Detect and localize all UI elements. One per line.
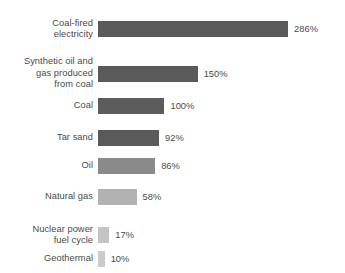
bar-value-label: 58% (137, 192, 162, 202)
horizontal-bar-chart: Coal-fired electricity286%Synthetic oil … (0, 0, 345, 273)
chart-row: Synthetic oil and gas produced from coal… (0, 57, 345, 90)
bar-area: 86% (98, 158, 345, 174)
bar-value-label: 92% (159, 133, 184, 143)
category-label: Tar sand (0, 132, 98, 143)
chart-row: Coal-fired electricity286% (0, 18, 345, 40)
bar-value-label: 17% (109, 230, 134, 240)
category-label: Natural gas (0, 191, 98, 202)
chart-row: Coal100% (0, 95, 345, 117)
bar-area: 17% (98, 227, 345, 243)
bar-value-label: 86% (155, 161, 180, 171)
category-label: Coal (0, 100, 98, 111)
bar-area: 150% (98, 66, 345, 82)
bar (98, 189, 137, 205)
chart-row: Oil86% (0, 155, 345, 177)
category-label: Synthetic oil and gas produced from coal (0, 56, 98, 90)
bar (98, 130, 159, 146)
chart-row: Geothermal10% (0, 248, 345, 270)
chart-row: Tar sand92% (0, 127, 345, 149)
category-label: Oil (0, 160, 98, 171)
bar-area: 100% (98, 98, 345, 114)
bar (98, 227, 109, 243)
category-label: Nuclear power fuel cycle (0, 224, 98, 247)
category-label: Geothermal (0, 253, 98, 264)
bar (98, 66, 198, 82)
bar (98, 251, 105, 267)
bar-area: 58% (98, 189, 345, 205)
bar-area: 10% (98, 251, 345, 267)
chart-row: Nuclear power fuel cycle17% (0, 221, 345, 249)
chart-row: Natural gas58% (0, 186, 345, 208)
category-label: Coal-fired electricity (0, 18, 98, 41)
bar-value-label: 150% (198, 69, 228, 79)
bar (98, 98, 164, 114)
bar-value-label: 100% (164, 101, 194, 111)
bar (98, 21, 288, 37)
bar-value-label: 10% (105, 254, 130, 264)
bar-value-label: 286% (288, 24, 318, 34)
bar-area: 286% (98, 21, 345, 37)
bar (98, 158, 155, 174)
bar-area: 92% (98, 130, 345, 146)
